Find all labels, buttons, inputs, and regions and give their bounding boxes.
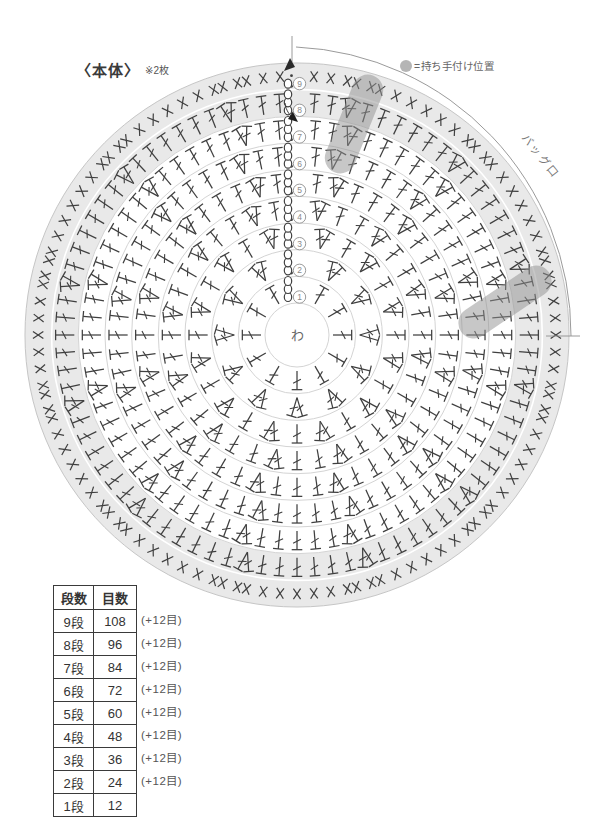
table-row: 6段72: [54, 679, 137, 702]
increase-note: (+12目): [141, 655, 182, 678]
increase-notes: (+12目)(+12目)(+12目)(+12目)(+12目)(+12目)(+12…: [141, 609, 182, 816]
increase-note: (+12目): [141, 701, 182, 724]
svg-text:2: 2: [297, 265, 302, 275]
table-row: 4段48: [54, 725, 137, 748]
svg-text:1: 1: [297, 292, 302, 302]
stitch-count-table: 段数 目数 9段1088段967段846段725段604段483段362段241…: [53, 585, 137, 817]
table-cell: 3段: [54, 748, 94, 771]
increase-note: (+12目): [141, 724, 182, 747]
table-cell: 24: [94, 771, 137, 794]
table-cell: 36: [94, 748, 137, 771]
svg-text:6: 6: [297, 159, 302, 169]
pattern-title-main: 〈本体〉: [76, 62, 140, 79]
increase-note: (+12目): [141, 747, 182, 770]
stitch-count-table-wrap: 段数 目数 9段1088段967段846段725段604段483段362段241…: [53, 585, 137, 817]
header-count: 目数: [94, 586, 137, 610]
bag-opening-label: バッグ口: [519, 131, 563, 181]
increase-note: (+12目): [141, 678, 182, 701]
table-cell: 84: [94, 656, 137, 679]
table-row: 3段36: [54, 748, 137, 771]
table-row: 1段12: [54, 794, 137, 817]
round-markers-layer: 123456789: [284, 74, 305, 303]
svg-text:5: 5: [297, 185, 302, 195]
table-header-row: 段数 目数: [54, 586, 137, 610]
pattern-title-note: ※2枚: [145, 65, 169, 76]
table-cell: 96: [94, 633, 137, 656]
table-cell: 6段: [54, 679, 94, 702]
pattern-title: 〈本体〉※2枚: [76, 59, 169, 80]
increase-note: (+12目): [141, 609, 182, 632]
table-cell: 2段: [54, 771, 94, 794]
table-cell: 60: [94, 702, 137, 725]
table-row: 7段84: [54, 656, 137, 679]
header-round: 段数: [54, 586, 94, 610]
increase-note: (+12目): [141, 770, 182, 793]
table-cell: 1段: [54, 794, 94, 817]
table-cell: 108: [94, 610, 137, 633]
table-row: 5段60: [54, 702, 137, 725]
svg-text:8: 8: [297, 105, 302, 115]
table-row: 9段108: [54, 610, 137, 633]
svg-text:9: 9: [297, 79, 302, 89]
table-cell: 7段: [54, 656, 94, 679]
svg-text:4: 4: [297, 212, 302, 222]
increase-note: (+12目): [141, 632, 182, 655]
svg-text:3: 3: [297, 239, 302, 249]
handle-marker-icon: [400, 60, 412, 72]
table-cell: 5段: [54, 702, 94, 725]
handle-legend: =持ち手付け位置: [400, 58, 494, 73]
table-cell: 48: [94, 725, 137, 748]
table-row: 8段96: [54, 633, 137, 656]
table-cell: 9段: [54, 610, 94, 633]
table-cell: 72: [94, 679, 137, 702]
table-cell: 8段: [54, 633, 94, 656]
magic-ring-label: わ: [291, 328, 304, 343]
increase-note: [141, 793, 182, 816]
table-cell: 12: [94, 794, 137, 817]
table-cell: 4段: [54, 725, 94, 748]
table-row: 2段24: [54, 771, 137, 794]
svg-text:7: 7: [297, 132, 302, 142]
crochet-pattern-page: 123456789 バッグ口 わ 〈本体〉※2枚 =持ち手付け位置 段数: [0, 0, 613, 839]
handle-legend-label: =持ち手付け位置: [414, 58, 494, 73]
